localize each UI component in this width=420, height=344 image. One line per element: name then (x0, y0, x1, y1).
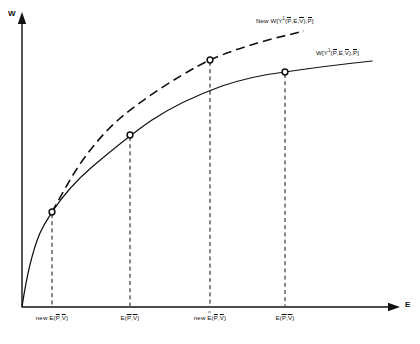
overbar (282, 314, 286, 315)
x-axis-arrowhead (388, 303, 400, 311)
overbar (62, 314, 66, 315)
solid-p-glyph: P (333, 49, 337, 56)
solid-curve-label-p-bar2: P (353, 50, 357, 56)
tick-3-prefix: new (194, 314, 207, 321)
overbar (56, 314, 60, 315)
solid-curve-label-comma1: ,E, (337, 49, 345, 56)
tick-4-p-bar: P (282, 315, 286, 321)
solid-curve-path (22, 61, 372, 307)
dashed-p-glyph: P (287, 17, 291, 24)
tick-1-p-bar: P (56, 315, 60, 321)
economics-welfare-chart: W E New W[Y1(P,E,V),P] W[Y1(P,E,V),P] ne… (0, 0, 420, 344)
dashed-curve-label-comma1: ,E, (291, 17, 299, 24)
tick-1-v-bar: V (62, 315, 66, 321)
dashed-v-glyph: V (299, 17, 303, 24)
tick-3-close: ) (224, 314, 226, 321)
dashed-curve-label-w: W[Y (271, 17, 283, 24)
tick-label-3: new E^(P,V) (194, 315, 226, 321)
solid-curve-label-p-bar: P (333, 50, 337, 56)
tick-1-prefix: new (36, 314, 49, 321)
solid-curve-label-w: W[Y (316, 49, 328, 56)
dashed-p2-glyph: P (308, 17, 312, 24)
dashed-curve-label-p-bar: P (287, 18, 291, 24)
overbar (127, 314, 131, 315)
solid-curve-label-bracket: ] (357, 49, 359, 56)
overbar (287, 17, 291, 18)
data-point-markers (49, 57, 288, 215)
overbar (299, 17, 303, 18)
marker-2 (127, 132, 133, 138)
tick-4-close: ) (292, 314, 294, 321)
overbar (308, 17, 312, 18)
dashed-curve-label-v-bar: V (299, 18, 303, 24)
tick-label-4: E(P,V) (276, 315, 295, 321)
marker-3 (207, 57, 213, 63)
dashed-curve-label-bracket: ] (312, 17, 314, 24)
tick-3-p-bar: P (214, 315, 218, 321)
overbar (214, 314, 218, 315)
overbar (333, 49, 337, 50)
droplines-group (52, 62, 285, 306)
tick-2-p-glyph: P (127, 314, 131, 321)
tick-3-base-hat: E^ (207, 315, 211, 321)
tick-1-v-glyph: V (62, 314, 66, 321)
solid-welfare-curve (22, 61, 372, 307)
solid-curve-label-v-bar: V (345, 50, 349, 56)
y-axis-label: W (8, 10, 16, 18)
solid-p2-glyph: P (353, 49, 357, 56)
tick-1-close: ) (66, 314, 68, 321)
dashed-curve-label-p-bar2: P (308, 18, 312, 24)
tick-label-2: E(P,V) (121, 315, 140, 321)
tick-label-1: new E(P,V) (36, 315, 68, 321)
tick-2-v-bar: V (133, 315, 137, 321)
tick-4-v-bar: V (288, 315, 292, 321)
tick-3-v-glyph: V (220, 314, 224, 321)
tick-2-p-bar: P (127, 315, 131, 321)
marker-4 (282, 69, 288, 75)
dashed-curve-path (52, 31, 304, 212)
overbar (288, 314, 292, 315)
tick-4-p-glyph: P (282, 314, 286, 321)
circumflex-accent: ^ (208, 311, 211, 317)
solid-curve-label: W[Y1(P,E,V),P] (316, 50, 359, 56)
tick-2-close: ) (137, 314, 139, 321)
tick-3-v-bar: V (220, 315, 224, 321)
overbar (220, 314, 224, 315)
overbar (133, 314, 137, 315)
tick-3-p-glyph: P (214, 314, 218, 321)
dashed-curve-label-prefix: New (256, 17, 271, 24)
tick-2-v-glyph: V (133, 314, 137, 321)
x-axis-label: E (405, 301, 410, 309)
tick-4-v-glyph: V (288, 314, 292, 321)
dashed-curve-label: New W[Y1(P,E,V),P] (256, 18, 314, 24)
y-axis-arrowhead (18, 12, 26, 24)
overbar (353, 49, 357, 50)
dashed-new-welfare-curve (52, 31, 304, 212)
overbar (345, 49, 349, 50)
tick-1-p-glyph: P (56, 314, 60, 321)
marker-1 (49, 209, 55, 215)
solid-v-glyph: V (345, 49, 349, 56)
